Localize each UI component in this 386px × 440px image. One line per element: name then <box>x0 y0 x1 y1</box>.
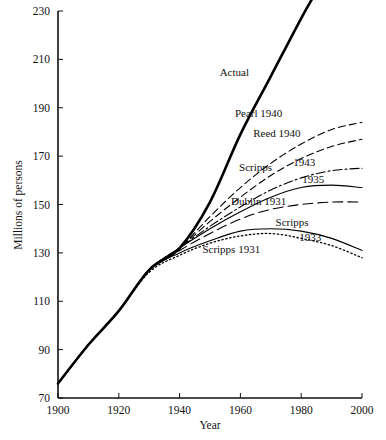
y-axis-title: Millions of persons <box>12 160 25 250</box>
chart-annotations-group: ActualPearl 1940Reed 1940Scripps19431935… <box>202 66 324 255</box>
population-projection-chart: 7090110130150170190210230 19001920194019… <box>0 0 386 440</box>
x-tick-label-2000: 2000 <box>351 404 374 416</box>
curve-label-scripps: Scripps <box>276 216 309 228</box>
y-axis-tick-labels: 7090110130150170190210230 <box>33 5 51 404</box>
series-scripps-1931 <box>58 233 362 383</box>
curve-label-reed-1940: Reed 1940 <box>253 127 301 139</box>
curve-label-scripps: Scripps <box>239 161 272 173</box>
x-tick-label-1900: 1900 <box>47 404 70 416</box>
chart-series-group <box>58 0 362 383</box>
x-axis-tick-labels: 190019201940196019802000 <box>47 404 374 416</box>
series-actual <box>58 0 316 383</box>
y-tick-label-130: 130 <box>33 247 51 259</box>
curve-label-actual: Actual <box>220 66 249 78</box>
y-tick-label-170: 170 <box>33 150 51 162</box>
y-tick-label-110: 110 <box>33 295 50 307</box>
series-scripps-1935 <box>58 185 362 383</box>
curve-label-1935: 1935 <box>302 173 325 185</box>
curve-label-scripps-1931: Scripps 1931 <box>202 243 260 255</box>
curve-label-1933: 1933 <box>299 231 322 243</box>
x-tick-label-1940: 1940 <box>168 404 191 416</box>
x-axis-title: Year <box>199 419 220 431</box>
x-tick-label-1980: 1980 <box>290 404 313 416</box>
y-tick-label-70: 70 <box>39 392 51 404</box>
y-tick-label-150: 150 <box>33 199 51 211</box>
x-tick-label-1920: 1920 <box>107 404 130 416</box>
y-tick-label-190: 190 <box>33 102 51 114</box>
chart-canvas: 7090110130150170190210230 19001920194019… <box>0 0 386 440</box>
y-tick-label-90: 90 <box>39 344 51 356</box>
curve-label-pearl-1940: Pearl 1940 <box>235 107 283 119</box>
y-tick-label-230: 230 <box>33 5 51 17</box>
x-tick-label-1960: 1960 <box>229 404 252 416</box>
curve-label-1943: 1943 <box>293 156 316 168</box>
y-tick-label-210: 210 <box>33 53 51 65</box>
curve-label-dublin-1931: Dublin 1931 <box>231 195 286 207</box>
